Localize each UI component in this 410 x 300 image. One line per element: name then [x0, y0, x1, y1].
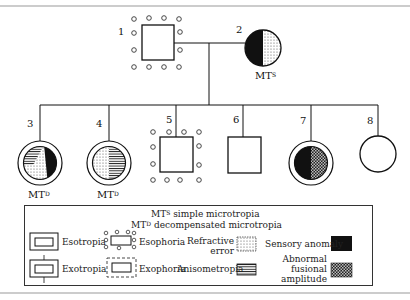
legend-fusional-label: Abnormalfusionalamplitude [270, 254, 327, 284]
individual-7-label: 7 [300, 115, 306, 126]
individual-4-label: 4 [96, 118, 102, 129]
individual-3-label: 3 [27, 118, 33, 129]
individual-1-symbol [132, 16, 183, 70]
legend-esotropia-label: Esotropia [62, 237, 106, 247]
legend-esophoria-label: Esophoria [139, 237, 185, 247]
individual-5-label: 5 [166, 114, 172, 125]
legend-mt-decompensated: MTD decompensated microtropia [131, 220, 282, 230]
individual-6-label: 6 [233, 114, 239, 125]
legend-sensory-label: Sensory anomaly [265, 239, 343, 249]
individual-7-symbol [289, 141, 333, 185]
legend-refractive-label: Refractiveerror [184, 236, 234, 256]
individual-2-symbol [244, 29, 282, 67]
legend-anisometropia-label: Anisometropia [177, 264, 243, 274]
individual-4-symbol [87, 141, 131, 185]
individual-8-symbol [360, 136, 396, 172]
individual-5-symbol [151, 130, 202, 183]
individual-2-label: 2 [236, 24, 242, 35]
individual-4-annotation: MTD [97, 189, 119, 200]
individual-6-symbol [228, 137, 261, 173]
individual-2-annotation: MTS [255, 70, 276, 81]
individual-3-symbol [18, 141, 65, 185]
individual-8-label: 8 [367, 115, 373, 126]
individual-3-annotation: MTD [28, 189, 50, 200]
legend-exotropia-label: Exotropia [62, 264, 106, 274]
legend-mt-simple: MTS simple microtropia [151, 209, 260, 219]
individual-1-label: 1 [118, 26, 124, 37]
